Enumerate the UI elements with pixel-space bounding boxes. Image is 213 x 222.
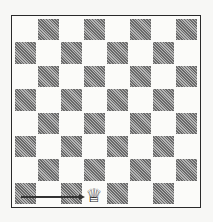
square-a7 xyxy=(14,41,37,64)
square-h8 xyxy=(175,18,198,41)
square-d2 xyxy=(83,158,106,181)
square-h7 xyxy=(175,41,198,64)
square-f3 xyxy=(129,135,152,158)
square-g1 xyxy=(152,182,175,205)
square-b6 xyxy=(37,65,60,88)
square-a2 xyxy=(14,158,37,181)
square-f1 xyxy=(129,182,152,205)
square-h2 xyxy=(175,158,198,181)
square-b4 xyxy=(37,112,60,135)
square-f6 xyxy=(129,65,152,88)
square-d3 xyxy=(83,135,106,158)
square-h1 xyxy=(175,182,198,205)
square-c5 xyxy=(60,88,83,111)
board-grid xyxy=(14,18,198,205)
square-h3 xyxy=(175,135,198,158)
square-f8 xyxy=(129,18,152,41)
square-e2 xyxy=(106,158,129,181)
square-e1 xyxy=(106,182,129,205)
square-a1 xyxy=(14,182,37,205)
square-g8 xyxy=(152,18,175,41)
square-a5 xyxy=(14,88,37,111)
square-g7 xyxy=(152,41,175,64)
square-a6 xyxy=(14,65,37,88)
square-c7 xyxy=(60,41,83,64)
square-h5 xyxy=(175,88,198,111)
square-d5 xyxy=(83,88,106,111)
square-c8 xyxy=(60,18,83,41)
square-b1 xyxy=(37,182,60,205)
square-f2 xyxy=(129,158,152,181)
square-h6 xyxy=(175,65,198,88)
square-e4 xyxy=(106,112,129,135)
move-arrow xyxy=(21,196,81,198)
square-g2 xyxy=(152,158,175,181)
square-c3 xyxy=(60,135,83,158)
square-e7 xyxy=(106,41,129,64)
square-d7 xyxy=(83,41,106,64)
square-c6 xyxy=(60,65,83,88)
square-a3 xyxy=(14,135,37,158)
square-a4 xyxy=(14,112,37,135)
square-b3 xyxy=(37,135,60,158)
square-c2 xyxy=(60,158,83,181)
square-d4 xyxy=(83,112,106,135)
square-e6 xyxy=(106,65,129,88)
square-c4 xyxy=(60,112,83,135)
square-b2 xyxy=(37,158,60,181)
square-e5 xyxy=(106,88,129,111)
square-d6 xyxy=(83,65,106,88)
square-f7 xyxy=(129,41,152,64)
queen-icon: ♕ xyxy=(83,184,105,206)
square-g5 xyxy=(152,88,175,111)
square-b7 xyxy=(37,41,60,64)
square-g6 xyxy=(152,65,175,88)
square-a8 xyxy=(14,18,37,41)
square-g4 xyxy=(152,112,175,135)
square-g3 xyxy=(152,135,175,158)
square-b5 xyxy=(37,88,60,111)
square-e8 xyxy=(106,18,129,41)
square-f5 xyxy=(129,88,152,111)
square-f4 xyxy=(129,112,152,135)
square-d8 xyxy=(83,18,106,41)
square-b8 xyxy=(37,18,60,41)
chessboard xyxy=(11,15,201,208)
square-e3 xyxy=(106,135,129,158)
square-h4 xyxy=(175,112,198,135)
